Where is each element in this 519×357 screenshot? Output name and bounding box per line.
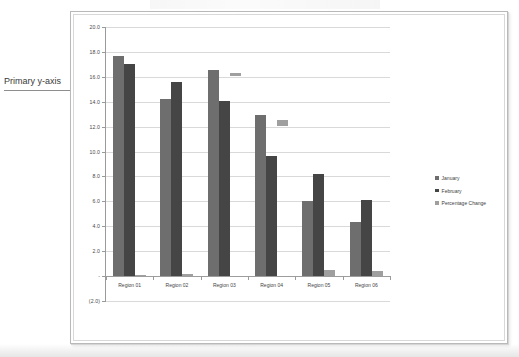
bar-group-bars: [106, 56, 153, 276]
legend-item[interactable]: January: [435, 175, 486, 181]
y-axis-label-6.0: 6.0: [92, 198, 100, 204]
bar-february[interactable]: [313, 174, 324, 277]
bar-group-bars: [153, 82, 200, 276]
y-axis-label-14.0: 14.0: [90, 99, 101, 105]
clipped-title-remnant: [150, 0, 380, 9]
bar-february[interactable]: [124, 64, 135, 277]
x-axis-tick: [201, 276, 202, 280]
legend-item[interactable]: Percentage Change: [435, 200, 486, 206]
primary-y-axis-annotation-label: Primary y-axis: [4, 76, 61, 86]
bar-february[interactable]: [171, 82, 182, 276]
x-axis-label: Region 02: [166, 282, 189, 288]
legend-swatch: [435, 189, 439, 193]
bar-february[interactable]: [219, 101, 230, 276]
y-axis-label-18.0: 18.0: [90, 49, 101, 55]
legend-swatch: [435, 176, 439, 180]
y-axis-label--: -: [98, 273, 100, 279]
chart-object[interactable]: 20.018.016.014.012.010.08.06.04.02.0-(2.…: [70, 11, 508, 344]
y-axis-label-(2.0): (2.0): [89, 298, 100, 304]
legend-label: Percentage Change: [442, 200, 486, 206]
y-axis-label-12.0: 12.0: [90, 124, 101, 130]
y-axis-label-16.0: 16.0: [90, 74, 101, 80]
gridline-(2.0): [106, 301, 390, 302]
bar-series-container: Region 01Region 02Region 03Region 04Regi…: [106, 27, 390, 301]
bar-group-bars: [295, 174, 342, 277]
y-axis-label-10.0: 10.0: [90, 149, 101, 155]
x-axis-label: Region 04: [260, 282, 283, 288]
bar-february[interactable]: [361, 200, 372, 276]
y-axis-label-20.0: 20.0: [90, 24, 101, 30]
y-axis-label-8.0: 8.0: [92, 173, 100, 179]
bar-january[interactable]: [160, 99, 171, 277]
annotation-underline: [4, 90, 78, 91]
bar-percentage-change[interactable]: [182, 274, 193, 276]
bar-percentage-change[interactable]: [324, 270, 335, 276]
bar-january[interactable]: [255, 115, 266, 276]
bar-january[interactable]: [302, 201, 313, 276]
legend-item[interactable]: February: [435, 188, 486, 194]
x-axis-label: Region 06: [355, 282, 378, 288]
plot-area: 20.018.016.014.012.010.08.06.04.02.0-(2.…: [105, 27, 390, 302]
x-axis-label: Region 05: [308, 282, 331, 288]
bar-january[interactable]: [113, 56, 124, 276]
y-axis-label-4.0: 4.0: [92, 223, 100, 229]
bar-percentage-change[interactable]: [135, 275, 146, 276]
bar-january[interactable]: [208, 70, 219, 276]
legend-swatch: [435, 201, 439, 205]
legend-label: February: [442, 188, 462, 194]
x-axis-tick: [248, 276, 249, 280]
bar-group-bars: [248, 115, 295, 276]
x-axis-tick: [153, 276, 154, 280]
bar-percentage-change[interactable]: [277, 120, 288, 126]
x-axis-tick: [390, 276, 391, 280]
x-axis-tick: [106, 276, 107, 280]
bar-group-bars: [343, 200, 390, 276]
y-axis-label-2.0: 2.0: [92, 248, 100, 254]
chart-legend: JanuaryFebruaryPercentage Change: [435, 175, 486, 206]
legend-label: January: [442, 175, 460, 181]
x-axis-label: Region 03: [213, 282, 236, 288]
bar-group-bars: [201, 70, 248, 276]
x-axis-label: Region 01: [118, 282, 141, 288]
bar-percentage-change[interactable]: [372, 271, 383, 276]
bar-january[interactable]: [350, 222, 361, 276]
bar-percentage-change[interactable]: [230, 73, 241, 76]
x-axis-tick: [343, 276, 344, 280]
bar-february[interactable]: [266, 156, 277, 276]
x-axis-tick: [295, 276, 296, 280]
y-axis-tick: [102, 301, 106, 302]
slide-bottom-band: [0, 344, 519, 357]
